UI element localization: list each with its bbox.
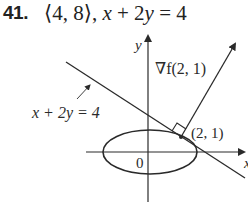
origin-label: 0 [136, 155, 144, 171]
line-label: x + 2y = 4 [31, 104, 100, 122]
diagram-canvas: y x 0 x + 2y = 4 ∇f(2, 1) (2, 1) [0, 0, 248, 214]
gradient-arrow [181, 44, 235, 137]
x-axis-label: x [243, 155, 248, 171]
y-axis-label: y [133, 37, 142, 53]
line-label-pointer [77, 85, 90, 99]
right-angle-marker [172, 123, 186, 131]
figure: 41. ⟨4, 8⟩, x + 2y = 4 y x 0 [0, 0, 248, 214]
gradient-label: ∇f(2, 1) [155, 60, 206, 78]
tangent-point [179, 135, 183, 139]
point-label: (2, 1) [191, 125, 224, 142]
